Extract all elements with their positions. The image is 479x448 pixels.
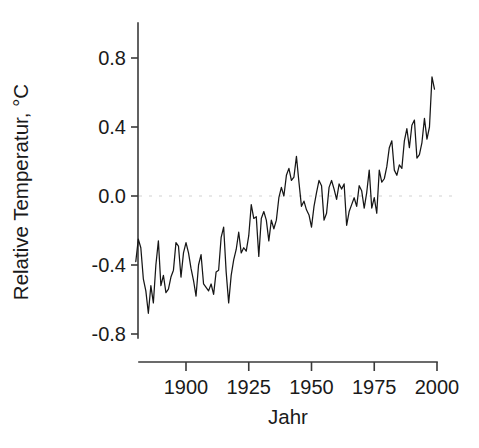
x-axis-title: Jahr <box>268 405 308 428</box>
x-tick-label: 1900 <box>164 376 209 398</box>
x-tick-label: 1925 <box>227 376 272 398</box>
chart-svg: Relative Temperatur, °C -0.8-0.40.00.40.… <box>0 0 479 448</box>
y-tick-label: -0.4 <box>92 254 126 276</box>
x-axis-ticks: 19001925195019752000 <box>164 362 460 398</box>
temperature-series-line <box>136 77 435 313</box>
y-tick-label: -0.8 <box>92 323 126 345</box>
y-tick-label: 0.4 <box>98 116 126 138</box>
y-tick-label: 0.8 <box>98 47 126 69</box>
y-tick-label: 0.0 <box>98 185 126 207</box>
temperature-anomaly-chart: Relative Temperatur, °C -0.8-0.40.00.40.… <box>0 0 479 448</box>
x-tick-label: 1950 <box>289 376 334 398</box>
y-axis-title: Relative Temperatur, °C <box>9 84 32 301</box>
x-tick-label: 2000 <box>415 376 460 398</box>
y-axis-ticks: -0.8-0.40.00.40.8 <box>92 47 138 345</box>
x-tick-label: 1975 <box>352 376 397 398</box>
